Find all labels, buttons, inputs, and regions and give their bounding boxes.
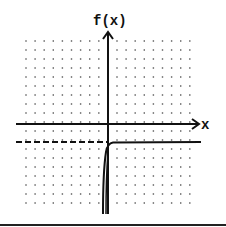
y-axis-label: f(x) <box>93 13 127 29</box>
function-graph: f(x) x <box>0 0 226 227</box>
x-axis-label: x <box>201 117 210 133</box>
